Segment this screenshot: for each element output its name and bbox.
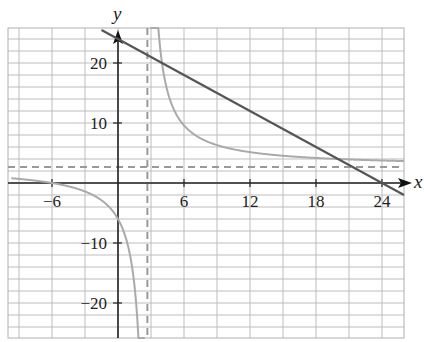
y-axis-label: y bbox=[111, 3, 122, 24]
x-tick-label: 12 bbox=[242, 192, 259, 211]
y-tick-label: 10 bbox=[90, 114, 107, 133]
rational-curve-left-branch bbox=[11, 178, 145, 338]
y-tick-label: −10 bbox=[80, 234, 107, 253]
graph: x y −6 6 12 18 24 20 10 −10 −20 bbox=[0, 0, 424, 342]
x-axis-label: x bbox=[413, 171, 423, 192]
rational-curve-right-branch bbox=[150, 28, 404, 161]
x-tick-label: −6 bbox=[43, 192, 61, 211]
y-tick-label: −20 bbox=[80, 294, 107, 313]
x-tick-label: 6 bbox=[180, 192, 189, 211]
x-tick-label: 18 bbox=[308, 192, 325, 211]
y-tick-label: 20 bbox=[90, 54, 107, 73]
x-tick-label: 24 bbox=[374, 192, 392, 211]
